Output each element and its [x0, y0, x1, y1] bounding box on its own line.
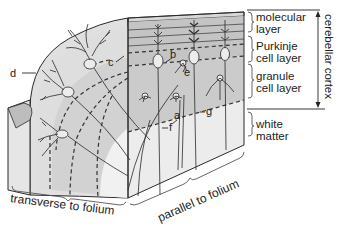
label-e: e — [184, 66, 190, 78]
label-d: d — [10, 67, 16, 79]
layer-text-labels: molecular layer Purkinje cell layer gran… — [255, 11, 335, 142]
cerebellar-cortex-label: cerebellar cortex — [323, 14, 335, 99]
granule-layer-label-2: cell layer — [256, 82, 302, 94]
arrow-down-icon — [316, 102, 321, 108]
molecular-layer-label-1: molecular — [256, 11, 306, 23]
granule-layer-label-1: granule — [256, 70, 294, 82]
molecular-layer-label-2: layer — [256, 23, 281, 35]
label-c: c — [108, 56, 114, 68]
white-matter-label-1: white — [255, 118, 283, 130]
cerebellar-cortex-diagram: a b c d e f g molecular layer Purkinje c… — [0, 0, 344, 230]
label-a: a — [174, 109, 181, 121]
purkinje-layer-label-2: cell layer — [256, 52, 302, 64]
arrow-up-icon — [316, 11, 321, 17]
purkinje-layer-label-1: Purkinje — [256, 40, 298, 52]
label-g: g — [206, 105, 212, 117]
white-matter-label-2: matter — [256, 130, 289, 142]
label-b: b — [170, 48, 176, 60]
parallel-label: parallel to folium — [156, 176, 242, 224]
